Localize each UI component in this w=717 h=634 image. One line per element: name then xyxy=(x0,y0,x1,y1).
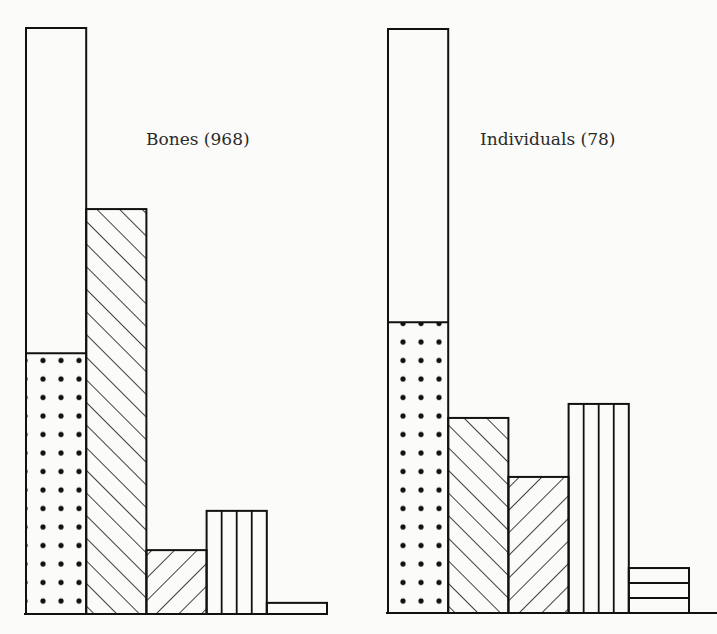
bar-outline xyxy=(629,568,689,613)
bar-diagonal-right xyxy=(86,209,146,614)
panel-bones: Bones (968) xyxy=(24,28,327,614)
bar-outline xyxy=(267,603,327,614)
bar-vertical-lines xyxy=(207,511,267,614)
bar-dotted xyxy=(388,322,448,613)
bar-diagonal-right xyxy=(448,418,508,613)
bar-diagonal-left xyxy=(146,550,206,614)
bar-diagonal-left xyxy=(508,477,568,613)
panel-label: Bones (968) xyxy=(146,129,250,149)
panels-layer: Bones (968)Individuals (78) xyxy=(24,28,717,614)
panel-label: Individuals (78) xyxy=(480,129,615,149)
panel-individuals: Individuals (78) xyxy=(386,29,717,613)
bar-dotted xyxy=(26,353,86,614)
bar-horizontal-lines xyxy=(629,568,689,613)
bar-vertical-lines xyxy=(569,404,629,613)
bar-horizontal-lines xyxy=(267,603,327,614)
chart: Bones (968)Individuals (78) xyxy=(0,0,717,634)
